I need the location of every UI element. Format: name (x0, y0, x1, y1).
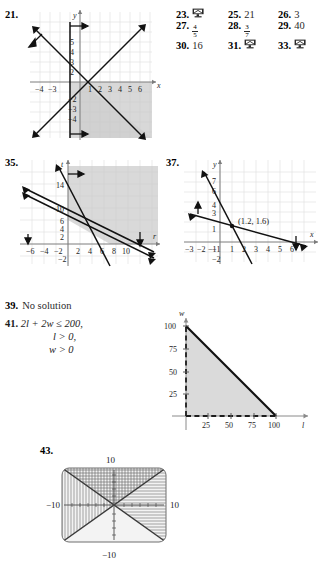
problem-41-line2: l > 0, (5, 331, 83, 344)
problem-41-graph: 100 75 50 25 25 50 75 100 w l (150, 300, 322, 440)
svg-text:w: w (179, 309, 185, 318)
svg-text:2: 2 (242, 245, 246, 254)
svg-text:−3: −3 (185, 245, 194, 254)
problem-37-graph: −3−2−1 123 456 76 431 −1−2 x y (1.2, 1.6… (176, 158, 324, 270)
svg-text:−1: −1 (212, 245, 221, 254)
problem-43-left-label: −10 (46, 500, 61, 510)
svg-text:6: 6 (100, 247, 104, 256)
svg-text:2: 2 (70, 68, 74, 77)
svg-text:3: 3 (212, 209, 216, 218)
svg-text:−4: −4 (40, 247, 49, 256)
svg-text:6: 6 (212, 187, 216, 196)
svg-text:4: 4 (118, 85, 122, 94)
svg-text:3: 3 (108, 85, 112, 94)
svg-text:−3: −3 (68, 105, 77, 114)
svg-text:−4: −4 (68, 115, 77, 124)
problem-43-graph: 10 −10 −10 10 (46, 448, 192, 566)
problem-43-right-label: 10 (170, 500, 180, 510)
answer-row: 23. 25. 21 26. 3 (176, 4, 324, 17)
answer-30: 30. 16 (176, 40, 228, 51)
svg-text:x: x (156, 81, 161, 90)
problem-41-line1: 41. 2l + 2w ≤ 200, (5, 318, 83, 331)
svg-text:6: 6 (290, 245, 294, 254)
svg-text:5: 5 (278, 245, 282, 254)
svg-text:2: 2 (98, 85, 102, 94)
problem-43-top-label: 10 (106, 455, 116, 465)
problem-43-bottom-label: −10 (102, 550, 117, 560)
problem-41: 41. 2l + 2w ≤ 200, l > 0, w > 0 (5, 318, 83, 357)
svg-text:50: 50 (225, 421, 233, 430)
svg-text:8: 8 (112, 247, 116, 256)
answer-27: 27. 4 5 (176, 20, 228, 39)
answer-row: 27. 4 5 28. 3 7 29. 40 (176, 20, 324, 33)
svg-text:2: 2 (60, 233, 64, 242)
graphing-calculator-screen-icon (294, 35, 307, 45)
svg-text:10: 10 (122, 247, 130, 256)
svg-text:25: 25 (202, 421, 210, 430)
svg-text:1: 1 (212, 225, 216, 234)
svg-text:25: 25 (169, 390, 177, 399)
svg-text:1: 1 (230, 245, 234, 254)
svg-text:3: 3 (70, 58, 74, 67)
svg-text:−3: −3 (48, 85, 57, 94)
svg-text:50: 50 (169, 368, 177, 377)
svg-text:100: 100 (268, 421, 280, 430)
answer-23: 23. (176, 4, 228, 20)
svg-text:7: 7 (212, 177, 216, 186)
graphing-calculator-screen-icon (244, 35, 257, 45)
svg-text:−4: −4 (35, 85, 44, 94)
svg-text:10: 10 (56, 205, 64, 214)
fraction-4-5: 4 5 (192, 24, 198, 39)
svg-text:4: 4 (70, 48, 74, 57)
svg-text:6: 6 (138, 85, 142, 94)
svg-text:−2: −2 (197, 245, 206, 254)
svg-text:100: 100 (164, 322, 176, 331)
svg-text:4: 4 (88, 247, 92, 256)
problem-39: 39. No solution (5, 300, 71, 311)
answer-29: 29. 40 (278, 20, 305, 31)
answer-33: 33. (278, 35, 307, 51)
graphing-calculator-screen-icon (192, 4, 205, 14)
svg-text:3: 3 (254, 245, 258, 254)
svg-text:−2: −2 (212, 255, 221, 264)
svg-text:5: 5 (128, 85, 132, 94)
answer-25: 25. 21 (228, 9, 278, 20)
problem-35-graph: −6−4−2 246 810 1410 642 −2 r t (14, 158, 164, 270)
problem-41-line3: w > 0 (5, 344, 83, 357)
answer-26: 26. 3 (278, 9, 299, 20)
svg-text:14: 14 (56, 181, 64, 190)
problem-37-point-label: (1.2, 1.6) (238, 216, 269, 226)
svg-text:5: 5 (70, 38, 74, 47)
answer-key-page: 21. (0, 0, 326, 570)
svg-text:−2: −2 (68, 95, 77, 104)
svg-text:−6: −6 (26, 247, 35, 256)
problem-21-graph: −4−3 123 456 543 2 −2−3−4 x y (18, 8, 164, 142)
svg-text:y: y (72, 11, 77, 20)
svg-text:75: 75 (248, 421, 256, 430)
svg-text:−2: −2 (58, 255, 67, 264)
svg-text:1: 1 (88, 85, 92, 94)
problem-21-number: 21. (5, 4, 18, 22)
answers-grid: 23. 25. 21 26. 3 (176, 4, 324, 51)
svg-text:x: x (309, 230, 314, 239)
svg-text:75: 75 (169, 345, 177, 354)
svg-text:y: y (212, 160, 217, 169)
svg-text:2: 2 (76, 247, 80, 256)
answer-31: 31. (228, 35, 278, 51)
svg-text:4: 4 (266, 245, 270, 254)
